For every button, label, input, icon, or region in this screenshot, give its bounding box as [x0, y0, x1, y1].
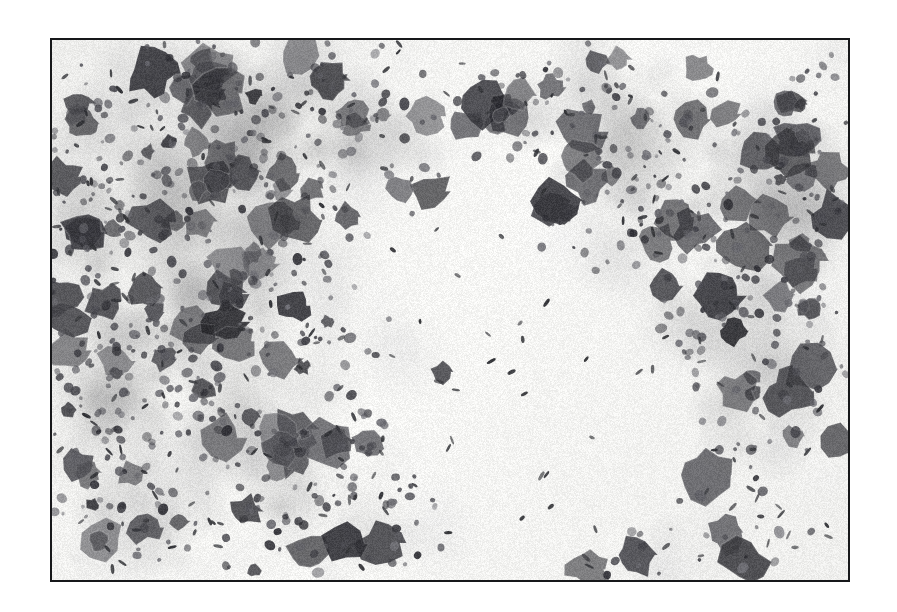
photomicrograph-image [52, 40, 848, 580]
figure-page [0, 0, 897, 612]
micrograph-frame [50, 38, 850, 582]
figure-caption [50, 586, 850, 606]
